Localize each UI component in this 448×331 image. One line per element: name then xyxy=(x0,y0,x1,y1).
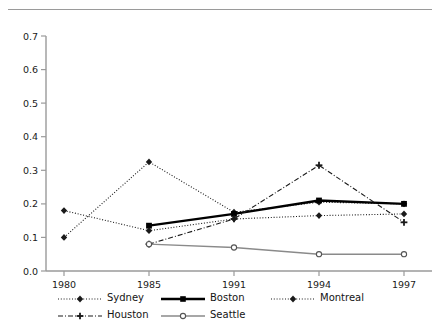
chart-legend: Sydney Boston Montreal xyxy=(58,289,438,329)
y-tick-label-5: 0.2 xyxy=(23,198,38,209)
series-seattle xyxy=(146,242,406,257)
series-boston xyxy=(146,198,407,229)
chart-plot-area: 0.7 0.6 0.5 0.4 0.3 0.2 0.1 0.0 1980 198… xyxy=(0,0,448,331)
seattle-line-swatch xyxy=(161,308,205,322)
y-tick-label-1: 0.6 xyxy=(23,64,38,75)
series-houston xyxy=(146,162,408,248)
legend-row-2: Houston Seattle xyxy=(58,306,438,323)
legend-item-montreal[interactable]: Montreal xyxy=(271,289,391,306)
legend-item-boston[interactable]: Boston xyxy=(161,289,271,306)
houston-line-swatch xyxy=(58,308,102,322)
y-tick-label-2: 0.5 xyxy=(23,98,38,109)
legend-label-houston: Houston xyxy=(107,309,149,320)
series-sydney xyxy=(61,158,407,240)
legend-label-montreal: Montreal xyxy=(320,292,364,303)
y-tick-label-3: 0.4 xyxy=(23,131,38,142)
y-tick-label-0: 0.7 xyxy=(23,31,38,42)
x-axis-ticks xyxy=(64,271,404,276)
legend-label-boston: Boston xyxy=(210,292,245,303)
legend-item-sydney[interactable]: Sydney xyxy=(58,289,161,306)
legend-item-seattle[interactable]: Seattle xyxy=(161,306,271,323)
legend-label-sydney: Sydney xyxy=(107,292,144,303)
legend-label-seattle: Seattle xyxy=(210,309,245,320)
y-tick-label-7: 0.0 xyxy=(23,266,38,277)
chart-figure: 0.7 0.6 0.5 0.4 0.3 0.2 0.1 0.0 1980 198… xyxy=(0,0,448,331)
series-layer xyxy=(61,158,408,256)
y-tick-label-6: 0.1 xyxy=(23,232,38,243)
legend-item-houston[interactable]: Houston xyxy=(58,306,161,323)
y-tick-label-4: 0.3 xyxy=(23,165,38,176)
boston-line-swatch xyxy=(161,291,205,305)
montreal-line-swatch xyxy=(271,291,315,305)
y-axis-ticks xyxy=(41,36,46,271)
sydney-line-swatch xyxy=(58,291,102,305)
legend-row-1: Sydney Boston Montreal xyxy=(58,289,438,306)
